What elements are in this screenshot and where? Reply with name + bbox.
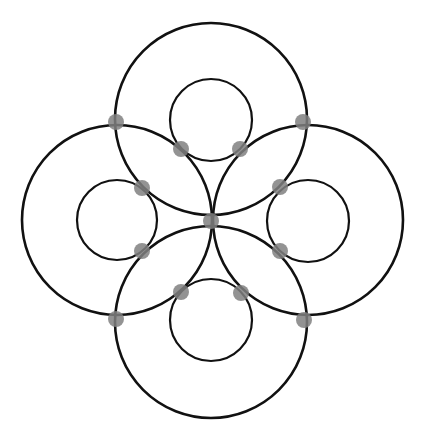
- circle-diagram: [0, 0, 424, 445]
- intersection-dot: [108, 114, 124, 130]
- intersection-dot: [173, 141, 189, 157]
- intersection-dot: [296, 312, 312, 328]
- intersection-dot: [272, 179, 288, 195]
- intersection-dot: [233, 285, 249, 301]
- intersection-dot: [203, 213, 219, 229]
- intersection-dot: [108, 311, 124, 327]
- intersection-dot: [272, 243, 288, 259]
- intersection-dot: [232, 141, 248, 157]
- intersection-dots: [108, 114, 312, 328]
- intersection-dot: [295, 114, 311, 130]
- intersection-dot: [134, 243, 150, 259]
- intersection-dot: [173, 284, 189, 300]
- intersection-dot: [134, 180, 150, 196]
